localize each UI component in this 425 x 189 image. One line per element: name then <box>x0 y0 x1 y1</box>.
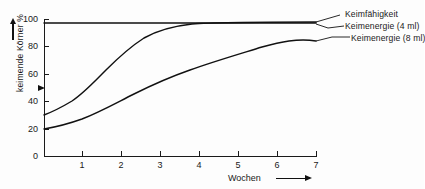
legend-leader-keimenergie-8ml <box>316 37 350 41</box>
legend-label-keimenergie-4ml: Keimenergie (4 ml) <box>345 21 419 31</box>
legend-leader-keimfaehigkeit <box>316 15 340 22</box>
legend-label-keimfaehigkeit: Keimfähigkeit <box>345 9 398 19</box>
legend-label-keimenergie-8ml: Keimenergie (8 ml) <box>351 33 425 43</box>
legend-leader-keimenergie-4ml <box>316 24 344 28</box>
curve-keimenergie-8ml <box>44 40 316 129</box>
curve-keimenergie-4ml <box>44 22 316 115</box>
